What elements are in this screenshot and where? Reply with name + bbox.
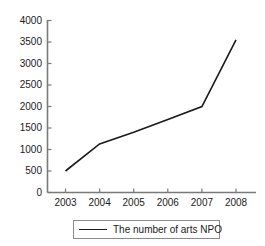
y-tick-label: 4000 — [2, 16, 42, 26]
legend-line-swatch — [79, 229, 107, 230]
y-tick-label: 1000 — [2, 145, 42, 155]
legend-label: The number of arts NPO — [113, 224, 222, 235]
y-tick-label: 1500 — [2, 123, 42, 133]
y-tick-label: 500 — [2, 166, 42, 176]
data-series-line — [66, 40, 237, 171]
y-tick-label: 3000 — [2, 59, 42, 69]
y-tick-label: 0 — [2, 188, 42, 198]
y-tick-label: 2000 — [2, 102, 42, 112]
legend: The number of arts NPO — [73, 220, 220, 239]
x-tick-label: 2008 — [216, 198, 256, 208]
y-tick-label: 2500 — [2, 80, 42, 90]
line-chart: 05001000150020002500300035004000 2003200… — [0, 0, 265, 246]
y-tick-label: 3500 — [2, 37, 42, 47]
